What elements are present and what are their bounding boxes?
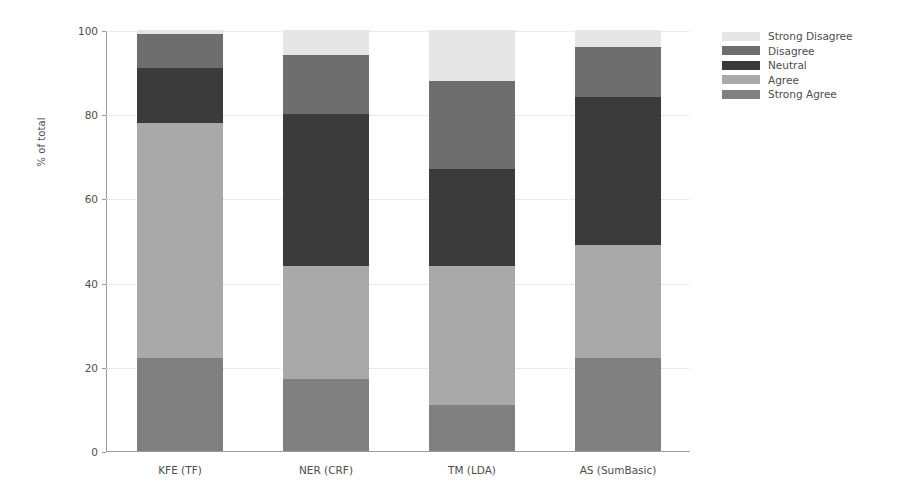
bar-segment xyxy=(283,55,369,114)
legend-swatch xyxy=(722,46,760,55)
bar: TM (LDA) xyxy=(429,30,515,451)
y-axis-title: % of total xyxy=(36,82,47,202)
bar-segment xyxy=(429,405,515,451)
legend-label: Neutral xyxy=(768,59,807,71)
y-tick-mark xyxy=(102,284,106,285)
legend-label: Strong Disagree xyxy=(768,30,853,42)
bar: NER (CRF) xyxy=(283,30,369,451)
bar-segment xyxy=(137,358,223,451)
bar-segment xyxy=(137,30,223,34)
y-tick-mark xyxy=(102,199,106,200)
x-tick-label: NER (CRF) xyxy=(246,464,406,476)
bar-segment xyxy=(575,358,661,451)
y-tick-label: 0 xyxy=(91,446,98,458)
plot-area: 020406080100 KFE (TF)NER (CRF)TM (LDA)AS… xyxy=(106,31,690,452)
bar-segment xyxy=(429,169,515,266)
y-tick-mark xyxy=(102,452,106,453)
legend-label: Disagree xyxy=(768,45,815,57)
y-tick-mark xyxy=(102,31,106,32)
bar-segment xyxy=(429,266,515,405)
legend-swatch xyxy=(722,90,760,99)
bar-segment xyxy=(137,123,223,359)
y-tick-mark xyxy=(102,368,106,369)
legend-label: Agree xyxy=(768,74,799,86)
legend-swatch xyxy=(722,32,760,41)
bar-segment xyxy=(575,47,661,98)
x-tick-label: AS (SumBasic) xyxy=(538,464,698,476)
bar-segment xyxy=(575,30,661,47)
y-tick-mark xyxy=(102,115,106,116)
y-axis-line xyxy=(106,31,107,452)
legend: Strong DisagreeDisagreeNeutralAgreeStron… xyxy=(722,29,902,102)
x-tick-label: TM (LDA) xyxy=(392,464,552,476)
y-tick-label: 40 xyxy=(85,278,98,290)
bar-segment xyxy=(429,81,515,169)
legend-item: Agree xyxy=(722,73,902,88)
legend-item: Strong Agree xyxy=(722,87,902,102)
bar-segment xyxy=(575,97,661,244)
bar-segment xyxy=(137,34,223,68)
y-tick-label: 20 xyxy=(85,362,98,374)
bar-segment xyxy=(283,379,369,451)
bar-segment xyxy=(283,114,369,266)
y-tick-label: 100 xyxy=(78,25,98,37)
y-tick-label: 60 xyxy=(85,193,98,205)
bar: KFE (TF) xyxy=(137,30,223,451)
bar-segment xyxy=(429,30,515,81)
x-axis-line xyxy=(106,451,690,452)
y-tick-label: 80 xyxy=(85,109,98,121)
legend-item: Strong Disagree xyxy=(722,29,902,44)
legend-item: Disagree xyxy=(722,44,902,59)
bar-segment xyxy=(137,68,223,123)
legend-swatch xyxy=(722,75,760,84)
x-tick-label: KFE (TF) xyxy=(100,464,260,476)
stacked-bar-chart: % of total 020406080100 KFE (TF)NER (CRF… xyxy=(0,0,905,496)
legend-item: Neutral xyxy=(722,58,902,73)
bar: AS (SumBasic) xyxy=(575,30,661,451)
legend-label: Strong Agree xyxy=(768,88,837,100)
legend-swatch xyxy=(722,61,760,70)
bar-segment xyxy=(283,266,369,380)
bar-segment xyxy=(283,30,369,55)
bar-segment xyxy=(575,245,661,359)
